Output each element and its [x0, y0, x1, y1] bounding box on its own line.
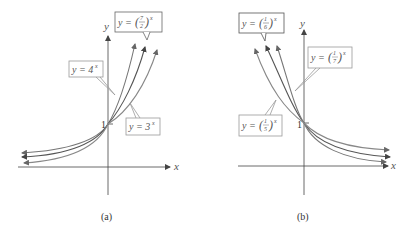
x-axis-label: x [173, 160, 179, 172]
svg-text:): ) [337, 50, 342, 64]
svg-text:y =: y = [241, 18, 256, 29]
svg-text:x: x [273, 118, 277, 124]
svg-text:2: 2 [140, 23, 143, 29]
caption-b: (b) [297, 211, 309, 223]
label-1-6x: y = ( 1 6 ) x [239, 13, 284, 41]
svg-text:1: 1 [264, 118, 267, 124]
svg-text:): ) [268, 16, 273, 30]
panel-b: x y 1 y = ( 1 6 ) x y = ( 1 [238, 13, 396, 223]
svg-text:x: x [94, 63, 98, 69]
svg-text:x: x [342, 50, 346, 56]
svg-text:y = 3: y = 3 [128, 121, 150, 132]
svg-text:y =: y = [310, 52, 325, 63]
panel-a: x y 1 y = ( 7 2 ) x y = 4 x [18, 12, 179, 223]
curve-3x-up [108, 50, 157, 124]
svg-text:x: x [151, 120, 155, 126]
svg-text:): ) [144, 15, 149, 29]
svg-text:6: 6 [264, 24, 267, 30]
svg-text:y = 4: y = 4 [71, 64, 93, 75]
caption-a: (a) [101, 211, 112, 223]
label-1-7x: y = ( 1 7 ) x [295, 47, 352, 91]
svg-text:1: 1 [333, 50, 336, 56]
y-axis-label: y [103, 20, 109, 32]
svg-text:y =: y = [241, 120, 256, 131]
curve-4x-up [108, 44, 135, 124]
svg-text:1: 1 [264, 16, 267, 22]
svg-text:x: x [273, 16, 277, 22]
label-3x: y = 3 x [126, 103, 160, 135]
svg-text:): ) [268, 118, 273, 132]
svg-text:5: 5 [264, 126, 267, 132]
svg-text:x: x [149, 15, 153, 21]
y-axis-label: y [299, 17, 305, 29]
label-7-2x: y = ( 7 2 ) x [115, 12, 162, 40]
label-1-5x: y = ( 1 5 ) x [239, 100, 282, 136]
exponential-graphs-figure: x y 1 y = ( 7 2 ) x y = 4 x [0, 0, 414, 232]
curve-3x [24, 124, 108, 163]
curve-1-7x-right [304, 123, 386, 162]
svg-text:y =: y = [117, 17, 132, 28]
x-axis-label: x [390, 159, 396, 171]
